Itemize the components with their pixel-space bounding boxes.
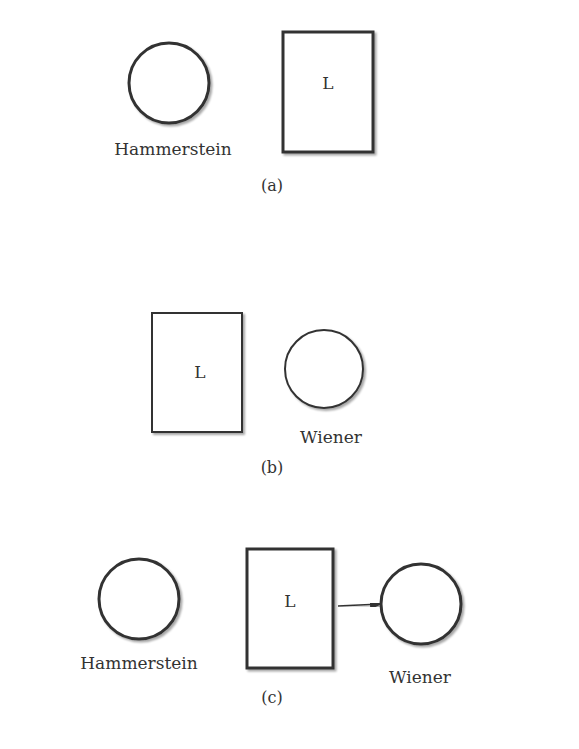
linear-block-label: L [284,591,295,611]
diagram-a: L Hammerstein (a) [57,32,524,195]
hammerstein-nonlinearity-circle [99,559,179,639]
hammerstein-label: Hammerstein [80,653,197,673]
caption-b: (b) [261,458,284,477]
block-diagrams: L Hammerstein (a) L Wiener (b) L Hammers… [0,0,579,749]
wiener-label: Wiener [389,667,452,687]
diagram-b: L Wiener (b) [79,313,437,477]
connector-arrow-2 [338,604,381,606]
linear-block-label: L [194,362,205,382]
diagram-c: L Hammerstein Wiener (c) [30,549,548,707]
wiener-nonlinearity-circle [381,564,461,644]
caption-c: (c) [261,688,282,707]
hammerstein-nonlinearity-circle [129,43,209,123]
hammerstein-label: Hammerstein [114,139,231,159]
caption-a: (a) [261,176,283,195]
wiener-nonlinearity-circle [285,330,363,408]
linear-block-label: L [322,73,333,93]
wiener-label: Wiener [300,427,363,447]
